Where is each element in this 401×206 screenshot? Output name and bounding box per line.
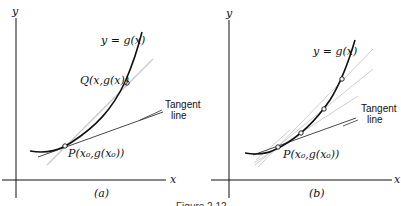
curve-label-a: y = g(x) [100, 34, 145, 47]
point-P-a [63, 144, 67, 148]
tangent-label-a-line1: Tangent [165, 99, 201, 110]
curve-g-a [30, 32, 142, 152]
tangent-label-b-line2: line [367, 114, 383, 125]
panel-b: y x y = g(x) P(x₀,g(x₀)) Tangent line (b… [211, 7, 401, 200]
point-P-label-b: P(x₀,g(x₀)) [282, 148, 339, 161]
point-b-2 [322, 107, 326, 111]
figure-canvas: y x y = g(x) Q(x,g(x)) P(x₀,g(x₀)) Tange… [0, 0, 401, 206]
figure-caption: Figure 2.12 [176, 201, 227, 206]
point-P-label-a: P(x₀,g(x₀)) [67, 147, 124, 160]
tangent-label-b-line1: Tangent [361, 103, 397, 114]
curve-label-b: y = g(x) [312, 45, 357, 58]
point-b-3 [340, 77, 344, 81]
x-axis-label-a: x [170, 173, 177, 186]
point-Q-label-a: Q(x,g(x)) [80, 74, 129, 87]
point-P-b [276, 145, 280, 149]
panel-label-b: (b) [309, 187, 325, 200]
panel-label-a: (a) [94, 187, 109, 200]
tangent-label-a-line2: line [171, 110, 187, 121]
point-b-1 [299, 131, 303, 135]
x-axis-label-b: x [394, 173, 401, 186]
panel-a: y x y = g(x) Q(x,g(x)) P(x₀,g(x₀)) Tange… [2, 5, 201, 200]
y-axis-label-b: y [225, 7, 233, 20]
y-axis-label-a: y [11, 5, 19, 18]
